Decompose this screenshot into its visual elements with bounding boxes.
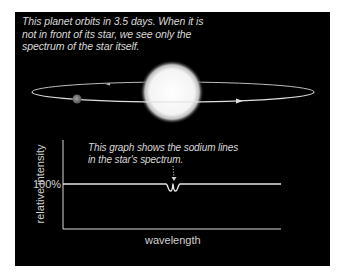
star-icon — [140, 60, 204, 124]
graph-caption: This graph shows the sodium lines in the… — [88, 142, 248, 166]
caption-pointer — [173, 166, 174, 178]
pointer-arrow-icon — [172, 177, 177, 181]
planet-icon — [73, 95, 82, 104]
orbit-arrow-icon — [236, 99, 243, 104]
spectrum-line — [63, 184, 281, 191]
x-axis-label: wavelength — [145, 234, 201, 246]
y-axis-label: relative intensity — [34, 134, 46, 234]
top-caption: This planet orbits in 3.5 days. When it … — [22, 15, 212, 53]
